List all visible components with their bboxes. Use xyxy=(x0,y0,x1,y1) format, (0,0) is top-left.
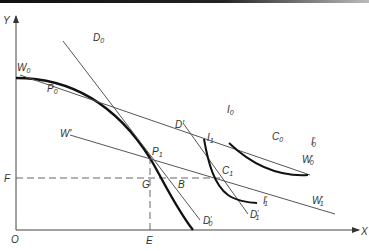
trade-diagram: Y X O F E W0 D0 P0 W′ P1 G B D′ I1 C1 I0… xyxy=(0,0,369,251)
p0-label: P0 xyxy=(47,83,58,95)
x-axis-label: X xyxy=(360,226,368,237)
c1-label: C1 xyxy=(222,165,233,177)
d0-label: D0 xyxy=(93,32,104,44)
i0-prime-label: I′0 xyxy=(311,136,316,148)
f-label: F xyxy=(4,173,11,184)
y-axis-label: Y xyxy=(3,15,11,26)
w0-prime-label: W′0 xyxy=(302,154,314,166)
d1-prime-label: D′1 xyxy=(250,209,260,221)
d-prime-label: D′ xyxy=(175,119,185,130)
origin-label: O xyxy=(11,234,19,245)
w-prime-label: W′ xyxy=(60,128,72,139)
b-label: B xyxy=(178,179,185,190)
i1-label: I1 xyxy=(207,132,214,144)
i1-prime-label: I′1 xyxy=(263,195,268,207)
g-label: G xyxy=(142,179,150,190)
w1-prime-label: W′1 xyxy=(312,195,324,207)
i0-label: I0 xyxy=(227,104,234,116)
w0-label: W0 xyxy=(17,62,30,74)
production-frontier-curve xyxy=(16,78,193,230)
p1-label: P1 xyxy=(152,146,163,158)
c0-label: C0 xyxy=(272,131,283,143)
d0-prime-label: D′0 xyxy=(203,215,213,227)
line-W0 xyxy=(20,75,310,175)
e-label: E xyxy=(146,235,153,246)
